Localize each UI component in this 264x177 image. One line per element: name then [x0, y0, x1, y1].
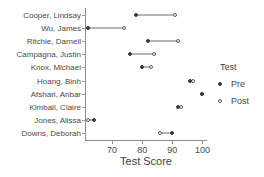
y-axis-tick [82, 81, 85, 82]
data-point-pre [188, 79, 192, 83]
data-point-pre [146, 39, 150, 43]
y-axis-tick [82, 120, 85, 121]
y-axis-tick [82, 41, 85, 42]
x-axis-tick [142, 141, 143, 144]
legend-marker [218, 99, 222, 103]
y-axis-label: Wu, James [41, 23, 81, 32]
y-axis-label: Ritchie, Darnell [27, 37, 81, 46]
plot-area: 708090100 [85, 8, 207, 140]
data-point-pre [134, 13, 138, 17]
legend-title: Test [220, 62, 262, 72]
y-axis-tick [82, 15, 85, 16]
y-axis-label: Afshari, Anbar [31, 89, 81, 98]
data-point-pre [176, 105, 180, 109]
legend-entries: PrePost [214, 79, 262, 106]
data-point-post [158, 131, 162, 135]
x-axis-tick [112, 141, 113, 144]
data-point-pre [128, 52, 132, 56]
pre-post-connector [136, 14, 175, 15]
pre-post-connector [130, 54, 154, 55]
legend-marker [218, 82, 222, 86]
y-axis-label: Jones, Alissa [34, 116, 81, 125]
x-axis-tick-label: 80 [137, 145, 147, 155]
y-axis-label: Kimball, Claire [29, 103, 81, 112]
y-axis-label: Campagna, Justin [17, 50, 81, 59]
data-point-post [176, 39, 180, 43]
data-point-pre [86, 26, 90, 30]
data-point-post [152, 52, 156, 56]
data-point-pre [92, 118, 96, 122]
y-axis-tick [82, 28, 85, 29]
y-axis-label: Knox, Michael [31, 63, 81, 72]
data-point-post [122, 26, 126, 30]
open-circle-icon [214, 99, 226, 103]
dot-plot-chart: Cooper, LindsayWu, JamesRitchie, Darnell… [0, 0, 264, 177]
y-axis-tick [82, 54, 85, 55]
y-axis-tick [82, 94, 85, 95]
legend-item-label: Post [231, 96, 249, 106]
data-point-post [173, 13, 177, 17]
y-axis-tick [82, 133, 85, 134]
x-axis-tick-label: 90 [167, 145, 177, 155]
data-point-pre [140, 65, 144, 69]
x-axis-title: Test Score [85, 155, 207, 167]
legend: Test PrePost [214, 62, 262, 113]
data-point-pre [200, 92, 204, 96]
x-axis-line [85, 140, 207, 141]
y-axis-tick [82, 107, 85, 108]
pre-post-connector [148, 41, 178, 42]
y-axis-label: Cooper, Lindsay [23, 10, 81, 19]
legend-item-label: Pre [231, 79, 245, 89]
legend-item[interactable]: Pre [214, 79, 262, 89]
filled-circle-icon [214, 82, 226, 86]
y-axis-label: Downs, Deborah [21, 129, 81, 138]
y-axis-category-labels: Cooper, LindsayWu, JamesRitchie, Darnell… [0, 8, 81, 140]
x-axis-tick-label: 100 [195, 145, 210, 155]
data-point-post [86, 118, 90, 122]
x-axis-tick-label: 70 [107, 145, 117, 155]
pre-post-connector [88, 27, 124, 28]
legend-item[interactable]: Post [214, 96, 262, 106]
data-point-post [149, 65, 153, 69]
x-axis-tick [172, 141, 173, 144]
y-axis-tick [82, 67, 85, 68]
x-axis-tick [202, 141, 203, 144]
data-point-pre [170, 131, 174, 135]
y-axis-label: Hoang, Binh [37, 76, 81, 85]
